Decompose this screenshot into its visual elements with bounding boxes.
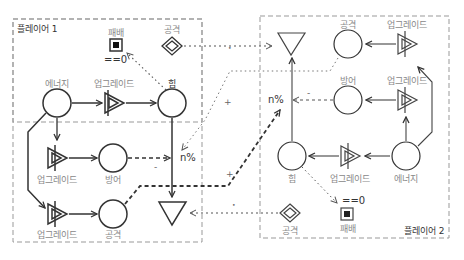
p1-upgrade-attack-label: 업그레이드 bbox=[37, 230, 77, 240]
p2-power-pool bbox=[278, 142, 306, 170]
p1-defense-pool bbox=[99, 144, 127, 172]
p2-upgrade-attack-label: 업그레이드 bbox=[387, 20, 427, 30]
p1-upgrade-defense-label: 업그레이드 bbox=[37, 175, 77, 185]
p1-minus-sign: - bbox=[154, 163, 157, 172]
p1-drain bbox=[159, 202, 186, 225]
p2-drain bbox=[278, 33, 305, 55]
p1-lose-label: 패배 bbox=[108, 28, 124, 38]
p2-defense-label: 방어 bbox=[340, 76, 356, 86]
p2-attack-pool bbox=[334, 30, 362, 58]
dot-marker-lower: • bbox=[232, 200, 236, 209]
p1-upgrade-power-label: 업그레이드 bbox=[94, 79, 134, 89]
p2-attack-to-p1-modifier bbox=[182, 58, 338, 150]
p1-attack-pool bbox=[99, 200, 127, 228]
p1-power-pool bbox=[158, 89, 186, 117]
player1-title: 플레이어 1 bbox=[17, 24, 58, 34]
p1-upgrade-attack-converter bbox=[48, 201, 67, 227]
p2-power-label: 힘 bbox=[288, 174, 296, 184]
p1-attack-trigger-label: 공격 bbox=[164, 25, 180, 35]
p2-upgrade-power-label: 업그레이드 bbox=[330, 174, 370, 184]
p2-modifier: n% bbox=[268, 95, 284, 105]
plus-sign-upper: + bbox=[224, 98, 232, 107]
p2-energy-pool bbox=[392, 142, 420, 170]
p2-lose-condition: ==0 bbox=[342, 196, 365, 206]
p1-attack-label: 공격 bbox=[105, 230, 121, 240]
p2-attack-trigger-label: 공격 bbox=[282, 226, 298, 236]
p1-modifier: n% bbox=[180, 153, 196, 163]
diagram-canvas bbox=[0, 0, 464, 260]
p2-attack-label: 공격 bbox=[340, 20, 356, 30]
p2-energy-label: 에너지 bbox=[394, 174, 418, 184]
dot-marker-upper: • bbox=[228, 43, 232, 52]
p1-attack-trigger bbox=[162, 37, 182, 55]
p2-minus-sign: - bbox=[307, 89, 310, 98]
p1-upgrade-power-converter bbox=[105, 90, 124, 116]
p1-lose-condition: ==0 bbox=[104, 55, 127, 65]
p1-defense-label: 방어 bbox=[105, 175, 121, 185]
p2-upgrade-power-converter bbox=[341, 143, 360, 169]
p2-upgrade-attack-converter bbox=[398, 31, 417, 57]
p1-attack-to-p2-modifier bbox=[125, 110, 280, 204]
p2-attack-trigger bbox=[280, 204, 300, 222]
p1-energy-pool bbox=[43, 89, 71, 117]
p1-power-label: 힘 bbox=[168, 79, 176, 89]
plus-sign-lower: + bbox=[226, 170, 234, 179]
player2-title: 플레이어 2 bbox=[404, 226, 445, 236]
p2-upgrade-defense-converter bbox=[398, 87, 417, 113]
p2-defense-pool bbox=[334, 86, 362, 114]
p2-upgrade-defense-label: 업그레이드 bbox=[387, 76, 427, 86]
p2-lose-label: 패배 bbox=[340, 224, 356, 234]
p1-energy-label: 에너지 bbox=[45, 79, 69, 89]
p1-upgrade-defense-converter bbox=[48, 145, 67, 171]
